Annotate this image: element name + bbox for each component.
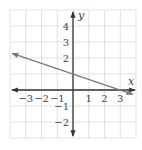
x-tick-label: −3 <box>18 93 33 104</box>
chart-svg: −3−2−1123432−1−2xy <box>0 0 142 150</box>
y-tick-label: 2 <box>63 53 69 64</box>
x-tick-label: 2 <box>101 93 107 104</box>
x-tick-label: 3 <box>117 93 123 104</box>
x-tick-label: −2 <box>34 93 49 104</box>
y-tick-label: 4 <box>63 21 69 32</box>
y-tick-label: −1 <box>54 101 69 112</box>
x-tick-label: 1 <box>86 93 92 104</box>
y-tick-label: −2 <box>54 117 69 128</box>
tick-labels: −3−2−1123432−1−2xy <box>18 9 135 128</box>
y-axis-label: y <box>77 9 85 22</box>
coordinate-plane-chart: −3−2−1123432−1−2xy <box>0 0 142 150</box>
y-tick-label: 3 <box>63 37 69 48</box>
x-axis-label: x <box>128 75 135 88</box>
